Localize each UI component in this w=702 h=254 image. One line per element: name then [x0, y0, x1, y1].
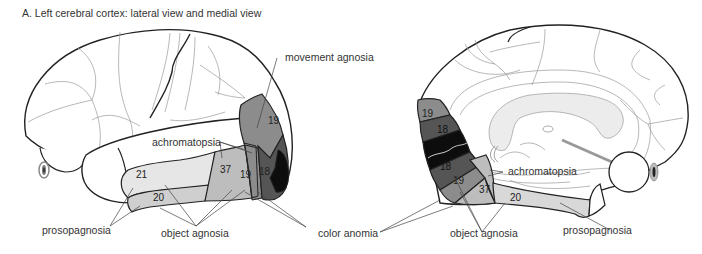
area-label: 20: [153, 192, 165, 203]
label-color-anomia: color anomia: [318, 227, 378, 239]
color-anomia-leaders: [380, 200, 453, 232]
area-label: 18: [259, 166, 271, 177]
area-label: 19: [240, 169, 252, 180]
area-label: 19: [453, 175, 465, 186]
label-object-agnosia-medial: object agnosia: [450, 227, 518, 239]
area-label: 20: [510, 192, 522, 203]
area-label: 37: [479, 184, 491, 195]
lateral-view: 21 20 37 19 19 18 movement agnosia achro…: [25, 30, 374, 239]
label-achromatopsia-lateral: achromatopsia: [152, 136, 221, 148]
anterior-commissure: [543, 126, 553, 132]
label-movement-agnosia: movement agnosia: [285, 51, 374, 63]
area-label: 19: [268, 115, 280, 126]
area-label: 37: [220, 164, 232, 175]
label-achromatopsia-medial: achromatopsia: [508, 165, 577, 177]
area-label: 19: [422, 108, 434, 119]
label-prosopagnosia-medial: prosopagnosia: [563, 224, 632, 236]
medial-view: 19 18 18 19 37 20 achromatopsia object a…: [418, 25, 689, 239]
label-prosopagnosia-lateral: prosopagnosia: [42, 224, 111, 236]
area-label: 18: [437, 124, 449, 135]
eye-icon-lateral: [39, 162, 49, 178]
brain-diagram: 21 20 37 19 19 18 movement agnosia achro…: [0, 0, 702, 254]
area-label: 18: [440, 161, 452, 172]
area-label: 21: [136, 169, 148, 180]
label-object-agnosia-lateral: object agnosia: [161, 227, 229, 239]
